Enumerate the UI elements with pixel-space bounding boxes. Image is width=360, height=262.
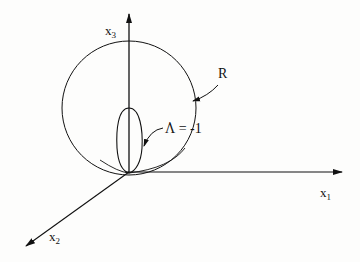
x2-axis-label: x2 <box>49 230 60 246</box>
sphere-r-label: R <box>218 67 227 81</box>
lambda-pointer-arrow <box>144 128 163 146</box>
lambda-dot-symbol: ·Λ <box>165 122 175 136</box>
x3-label-subscript: 3 <box>112 30 117 40</box>
x2-label-subscript: 2 <box>56 236 61 246</box>
x2-axis <box>26 172 129 246</box>
lambda-label: ·Λ = -1 <box>165 122 202 136</box>
diagram-figure: x3 x1 x2 R ·Λ = -1 <box>0 0 360 262</box>
x3-axis-label: x3 <box>105 24 116 40</box>
x1-label-subscript: 1 <box>327 192 332 202</box>
lambda-relation: = -1 <box>179 121 202 136</box>
r-pointer-arrow <box>193 85 218 101</box>
x1-axis-label: x1 <box>320 186 331 202</box>
